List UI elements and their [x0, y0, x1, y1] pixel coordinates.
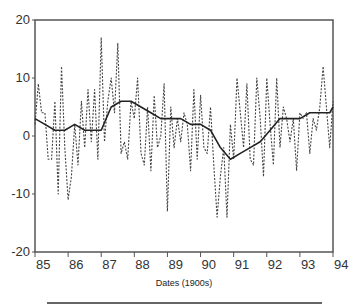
- x-tick-label: 86: [69, 257, 83, 272]
- y-tick-label: -20: [11, 244, 30, 259]
- line-chart: 20100-10-2085868788899091929394 Dates (1…: [0, 0, 349, 306]
- axis-labels: Dates (1900s): [47, 278, 322, 303]
- y-tick-label: 0: [23, 128, 30, 143]
- x-tick-label: 90: [202, 257, 216, 272]
- y-tick-label: 10: [16, 70, 30, 85]
- x-tick-label: 91: [235, 257, 249, 272]
- x-tick-label: 89: [168, 257, 182, 272]
- x-tick-label: 88: [135, 257, 149, 272]
- y-tick-label: 20: [16, 12, 30, 27]
- x-tick-label: 85: [36, 257, 50, 272]
- x-tick-label: 92: [268, 257, 282, 272]
- x-axis-label: Dates (1900s): [156, 278, 213, 288]
- x-tick-label: 93: [301, 257, 315, 272]
- y-tick-label: -10: [11, 186, 30, 201]
- x-tick-label: 87: [102, 257, 116, 272]
- x-tick-label: 94: [334, 257, 348, 272]
